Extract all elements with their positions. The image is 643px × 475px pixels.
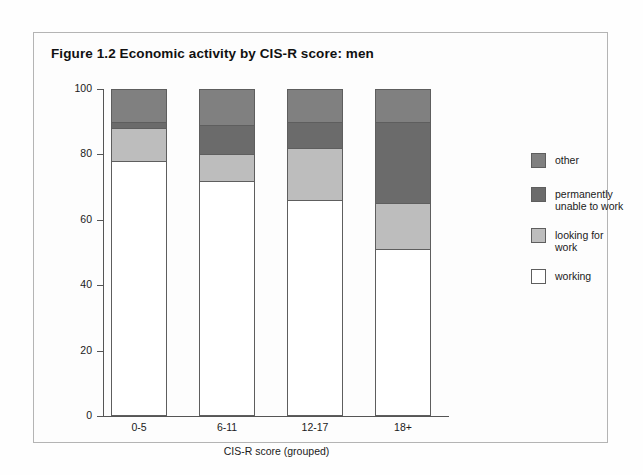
y-axis-line <box>103 89 104 416</box>
x-tick-label-6-11: 6-11 <box>182 421 272 433</box>
legend-swatch-working-icon <box>531 269 546 284</box>
bar-segment-working <box>375 249 431 416</box>
y-tick-20 <box>97 351 103 352</box>
bar-segment-perm-unable <box>375 122 431 204</box>
legend-label-permanently-unable-to-work-line1: permanently <box>555 188 613 200</box>
y-tick-60 <box>97 220 103 221</box>
bar-segment-other <box>287 89 343 122</box>
bar-segment-other <box>375 89 431 122</box>
y-tick-label-20: 20 <box>62 344 92 356</box>
bar-segment-other <box>199 89 255 125</box>
legend-item-looking-for-work[interactable]: looking for work <box>531 228 603 253</box>
x-axis-line <box>103 416 449 417</box>
legend-swatch-looking-for-work-icon <box>531 228 546 243</box>
page-title: Figure 1.2 Economic activity by CIS-R sc… <box>51 46 374 61</box>
bar-segment-working <box>199 181 255 416</box>
bar-6-11[interactable] <box>199 89 255 416</box>
y-tick-label-0: 0 <box>62 409 92 421</box>
bar-0-5[interactable] <box>111 89 167 416</box>
bar-segment-looking-for-work <box>111 128 167 161</box>
y-tick-0 <box>97 416 103 417</box>
x-tick-label-0-5: 0-5 <box>94 421 184 433</box>
x-tick-label-18-plus: 18+ <box>358 421 448 433</box>
legend-label-permanently-unable-to-work-line2: unable to work <box>555 200 623 212</box>
bar-segment-looking-for-work <box>199 154 255 180</box>
x-axis-title: CIS-R score (grouped) <box>104 445 449 457</box>
bar-18-plus[interactable] <box>375 89 431 416</box>
bar-segment-looking-for-work <box>375 203 431 249</box>
legend-item-working[interactable]: working <box>531 269 591 284</box>
bar-12-17[interactable] <box>287 89 343 416</box>
y-tick-label-60: 60 <box>62 213 92 225</box>
x-tick-label-12-17: 12-17 <box>270 421 360 433</box>
y-tick-label-100: 100 <box>62 82 92 94</box>
legend-label-other: other <box>555 154 579 166</box>
bar-segment-working <box>111 161 167 416</box>
y-tick-80 <box>97 154 103 155</box>
legend-swatch-permanently-unable-to-work-icon <box>531 187 546 202</box>
bar-segment-looking-for-work <box>287 148 343 200</box>
legend-item-permanently-unable-to-work[interactable]: permanently unable to work <box>531 187 623 212</box>
plot-area: 100 80 60 40 20 0 Proportion of men for … <box>104 89 449 416</box>
y-tick-label-40: 40 <box>62 278 92 290</box>
bar-segment-perm-unable <box>287 122 343 148</box>
legend-label-working: working <box>555 270 591 282</box>
y-tick-label-80: 80 <box>62 147 92 159</box>
y-tick-100 <box>97 89 103 90</box>
bar-segment-perm-unable <box>199 125 255 154</box>
legend-label-looking-for-work-line2: work <box>555 241 577 253</box>
bar-segment-other <box>111 89 167 122</box>
y-tick-40 <box>97 285 103 286</box>
bar-segment-working <box>287 200 343 416</box>
legend-label-looking-for-work-line1: looking for <box>555 229 603 241</box>
legend-swatch-other-icon <box>531 153 546 168</box>
figure-frame: Figure 1.2 Economic activity by CIS-R sc… <box>33 32 608 443</box>
figure-page: Figure 1.2 Economic activity by CIS-R sc… <box>0 0 643 475</box>
legend-item-other[interactable]: other <box>531 153 579 168</box>
